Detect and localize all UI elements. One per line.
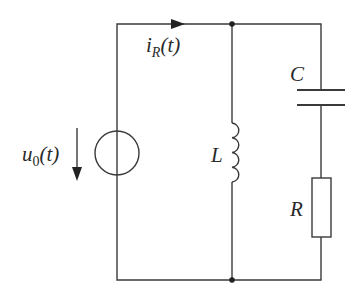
voltage-arrow-icon	[72, 167, 82, 181]
capacitor	[297, 90, 345, 105]
current-label-arg: (t)	[160, 33, 180, 57]
current-label: iR(t)	[146, 33, 180, 60]
source-label-main: u	[22, 142, 33, 166]
resistor-label: R	[289, 197, 303, 221]
source-label-arg: (t)	[40, 142, 60, 166]
source-label: u0(t)	[22, 142, 59, 169]
current-label-sub: R	[151, 45, 161, 60]
wire-left-bottom	[117, 175, 321, 280]
source-label-sub: 0	[33, 154, 40, 169]
circuit-diagram: iR(t) u0(t) L C R	[0, 0, 363, 295]
capacitor-label: C	[290, 62, 305, 86]
junction-top	[229, 21, 235, 27]
inductor	[232, 123, 239, 182]
junction-bottom	[229, 277, 235, 283]
current-arrow-icon	[171, 19, 185, 29]
resistor	[312, 178, 331, 237]
inductor-label: L	[210, 143, 223, 167]
